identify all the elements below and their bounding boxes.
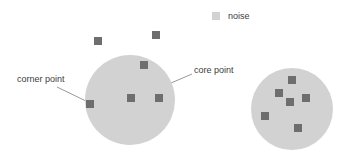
core-point-label: core point [194,65,234,76]
point-upper-left [275,89,283,97]
core-point-center [127,94,135,102]
corner-point-leader-line [57,87,86,101]
point-bottom [294,124,302,132]
noise-legend-swatch [212,12,220,20]
point-upper-right [140,61,148,69]
point-top [288,76,296,84]
corner-point-label: corner point [17,74,65,85]
corner-point [86,100,94,108]
point-lower-left [261,112,269,120]
point-right [302,94,310,102]
point-right [155,94,163,102]
noise-point-right [152,31,160,39]
noise-legend-label: noise [228,11,250,22]
point-middle [286,98,294,106]
dbscan-cluster-diagram: noise corner pointcore point [0,0,354,156]
noise-point-left [94,37,102,45]
